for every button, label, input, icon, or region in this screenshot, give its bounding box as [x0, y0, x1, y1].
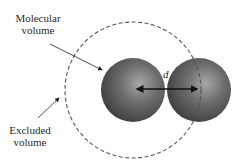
excluded-volume-line2: volume — [6, 136, 54, 148]
distance-label: d — [163, 68, 169, 80]
left-molecule-sphere — [101, 58, 165, 122]
molecular-volume-pointer — [50, 44, 102, 70]
excluded-volume-label: Excluded volume — [6, 124, 54, 148]
molecular-volume-line1: Molecular — [10, 12, 66, 24]
excluded-volume-pointer — [38, 98, 59, 118]
molecular-volume-line2: volume — [10, 24, 66, 36]
excluded-volume-line1: Excluded — [6, 124, 54, 136]
right-molecule-sphere — [167, 58, 231, 122]
molecular-volume-label: Molecular volume — [10, 12, 66, 36]
